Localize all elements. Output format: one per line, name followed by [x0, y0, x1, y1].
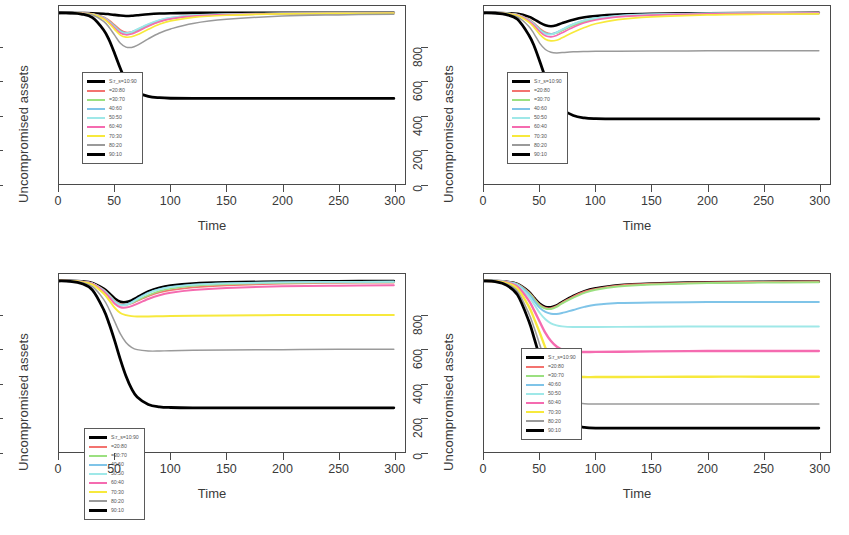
x-tick-label: 250 [753, 194, 774, 208]
legend-item-label: 90:10 [109, 152, 122, 157]
x-tick-mark [114, 453, 115, 460]
y-tick-label: 600 [420, 81, 421, 82]
legend-color-swatch [526, 393, 544, 395]
x-tick-mark [595, 185, 596, 192]
legend-color-swatch [526, 420, 544, 422]
legend-item: =20:80 [87, 86, 137, 95]
legend-item: 50:50 [87, 113, 137, 122]
x-tick-mark [764, 185, 765, 192]
x-tick-label: 300 [384, 194, 405, 208]
x-tick-label: 200 [697, 194, 718, 208]
x-tick-label: 150 [216, 462, 237, 476]
legend-item: S:r_s=10:90 [512, 77, 562, 86]
legend-color-swatch [512, 153, 530, 156]
legend-item-label: =30:70 [109, 97, 125, 102]
legend-item-label: =20:80 [109, 88, 125, 93]
y-tick-label: 600 [420, 349, 421, 350]
plot-area [58, 273, 406, 453]
y-tick-mark [0, 315, 3, 316]
legend-color-swatch [512, 135, 530, 137]
legend-item-label: 40:60 [109, 106, 122, 111]
legend-color-swatch [89, 509, 107, 512]
legend-item: S:r_s=10:90 [89, 433, 139, 442]
x-tick-label: 0 [55, 194, 62, 208]
x-tick-mark [764, 453, 765, 460]
y-axis-label: Uncompromised assets [16, 317, 31, 487]
legend-item-label: S:r_s=10:90 [534, 79, 562, 84]
legend-item-label: =30:70 [534, 97, 550, 102]
x-tick-label: 0 [55, 462, 62, 476]
series-line [484, 13, 819, 35]
x-tick-label: 250 [753, 462, 774, 476]
x-tick-mark [339, 453, 340, 460]
legend-item-label: 80:20 [548, 419, 561, 424]
legend-color-swatch [89, 455, 107, 457]
x-axis-label: Time [0, 218, 424, 233]
panel-bottom-left: Uncompromised assets 0200400600800 S:r_s… [0, 268, 424, 535]
legend-color-swatch [89, 436, 107, 439]
legend-item: 40:60 [512, 104, 562, 113]
legend-color-swatch [87, 99, 105, 101]
y-axis-label: Uncompromised assets [441, 49, 456, 219]
legend-item-label: 60:40 [548, 400, 561, 405]
legend-color-swatch [89, 473, 107, 475]
legend-item: 90:10 [526, 426, 576, 435]
series-line [59, 13, 394, 37]
multi-panel-figure: Uncompromised assets 0200400600800 S:r_s… [0, 0, 849, 535]
legend-color-swatch [526, 402, 544, 404]
legend-item-label: 70:30 [109, 134, 122, 139]
x-tick-label: 50 [107, 462, 121, 476]
x-tick-label: 50 [532, 194, 546, 208]
x-tick-mark [820, 185, 821, 192]
legend-item: 90:10 [512, 150, 562, 159]
legend-color-swatch [512, 80, 530, 83]
legend-color-swatch [526, 375, 544, 377]
x-tick-mark [595, 453, 596, 460]
legend-item: 80:20 [512, 141, 562, 150]
panel-top-right: Uncompromised assets 0200400600800 S:r_s… [425, 0, 849, 267]
x-tick-label: 50 [107, 194, 121, 208]
y-tick-mark [0, 384, 3, 385]
legend-item: 60:40 [526, 398, 576, 407]
x-tick-label: 300 [809, 462, 830, 476]
x-tick-mark [539, 453, 540, 460]
legend-item-label: 60:40 [109, 124, 122, 129]
legend-item: S:r_s=10:90 [526, 353, 576, 362]
legend-item-label: 70:30 [548, 410, 561, 415]
legend-item-label: 50:50 [109, 115, 122, 120]
legend-item-label: =30:70 [548, 373, 564, 378]
legend-color-swatch [526, 384, 544, 386]
x-tick-label: 0 [480, 462, 487, 476]
legend-color-swatch [512, 126, 530, 128]
legend-item: 90:10 [87, 150, 137, 159]
x-axis-label: Time [425, 486, 849, 501]
legend-item-label: S:r_s=10:90 [548, 355, 576, 360]
y-tick-label: 0 [420, 185, 421, 186]
x-tick-mark [651, 453, 652, 460]
legend-item-label: 50:50 [548, 391, 561, 396]
x-axis-label: Time [0, 486, 424, 501]
legend-item-label: 40:60 [534, 106, 547, 111]
legend-color-swatch [89, 464, 107, 466]
legend-color-swatch [87, 135, 105, 137]
legend-color-swatch [87, 126, 105, 128]
legend-item: =20:80 [89, 442, 139, 451]
legend-item-label: 60:40 [111, 480, 124, 485]
x-tick-mark [708, 453, 709, 460]
legend: S:r_s=10:90=20:80=30:7040:6050:5060:4070… [82, 72, 143, 164]
legend-color-swatch [526, 366, 544, 368]
y-axis-label: Uncompromised assets [441, 317, 456, 487]
x-tick-label: 50 [532, 462, 546, 476]
y-tick-label: 400 [420, 384, 421, 385]
y-tick-mark [0, 47, 3, 48]
series-line [484, 13, 819, 34]
legend-item: =30:70 [87, 95, 137, 104]
legend-item: 80:20 [526, 417, 576, 426]
x-tick-label: 250 [328, 462, 349, 476]
y-tick-mark [0, 81, 3, 82]
x-tick-label: 100 [585, 462, 606, 476]
panel-top-left: Uncompromised assets 0200400600800 S:r_s… [0, 0, 424, 267]
legend-color-swatch [512, 117, 530, 119]
legend-item-label: 50:50 [534, 115, 547, 120]
legend-item-label: 40:60 [548, 382, 561, 387]
